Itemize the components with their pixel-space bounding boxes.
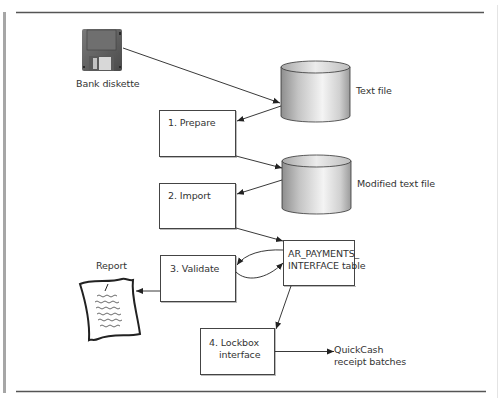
import-label: 2. Import bbox=[168, 190, 211, 202]
arrow-diskette-to-textfile bbox=[123, 48, 280, 103]
arrow-prepare-to-modified bbox=[236, 156, 282, 168]
arrow-interface-to-lockbox bbox=[276, 286, 291, 329]
arrow-validate-to-interface bbox=[236, 263, 283, 278]
left-side-bar bbox=[3, 12, 6, 393]
lockbox-label-line2: interface bbox=[219, 349, 260, 361]
report-label: Report bbox=[96, 260, 127, 272]
document-report-icon bbox=[80, 279, 140, 340]
lockbox-label-line1: 4. Lockbox bbox=[209, 337, 259, 349]
arrow-modified-to-import bbox=[237, 180, 282, 194]
arrow-import-to-interface bbox=[236, 228, 283, 241]
diskette-label: Bank diskette bbox=[76, 78, 140, 90]
text-file-cylinder-icon bbox=[281, 61, 350, 122]
text-file-label: Text file bbox=[356, 85, 392, 97]
prepare-label: 1. Prepare bbox=[168, 117, 216, 129]
arrow-textfile-to-prepare bbox=[237, 106, 281, 121]
quickcash-label-line2: receipt batches bbox=[334, 356, 406, 368]
validate-label: 3. Validate bbox=[170, 263, 219, 275]
modified-text-file-label: Modified text file bbox=[357, 178, 435, 190]
interface-table-label-line1: AR_PAYMENTS_ bbox=[288, 248, 359, 260]
modified-text-file-cylinder-icon bbox=[282, 155, 351, 214]
floppy-disk-icon bbox=[82, 29, 122, 71]
quickcash-label-line1: QuickCash bbox=[334, 344, 383, 356]
interface-table-label-line2: INTERFACE table bbox=[288, 260, 365, 272]
arrow-interface-to-validate bbox=[237, 250, 283, 265]
